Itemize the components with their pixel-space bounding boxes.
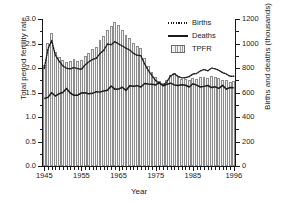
y-axis-right-minor-tick: [236, 80, 239, 81]
x-axis-minor-tick: [70, 167, 71, 170]
x-axis-tick-label: 1945: [29, 171, 59, 180]
x-axis-tick-label: 1975: [141, 171, 171, 180]
x-axis-tick-label: 1985: [178, 171, 208, 180]
y-axis-left-tick: [38, 93, 42, 94]
x-axis-minor-tick: [67, 167, 68, 170]
x-axis-minor-tick: [96, 167, 97, 170]
y-axis-right-tick: [236, 68, 240, 69]
x-axis-minor-tick: [48, 167, 49, 170]
y-axis-left-minor-tick: [40, 56, 43, 57]
x-axis-minor-tick: [182, 167, 183, 170]
y-axis-left-tick-label: 0.0: [12, 161, 36, 170]
y-axis-left-tick: [38, 166, 42, 167]
x-axis-minor-tick: [148, 167, 149, 170]
x-axis-minor-tick: [178, 167, 179, 170]
x-axis-minor-tick: [230, 167, 231, 170]
y-axis-left-tick: [38, 19, 42, 20]
y-axis-left-tick: [38, 44, 42, 45]
x-axis-minor-tick: [174, 167, 175, 170]
y-axis-left-minor-tick: [40, 154, 43, 155]
y-axis-left-minor-tick: [40, 31, 43, 32]
y-axis-right-tick-label: 200: [242, 137, 268, 146]
hatched-swatch-icon: [168, 43, 188, 54]
y-axis-right-tick: [236, 93, 240, 94]
x-axis-minor-tick: [111, 167, 112, 170]
y-axis-right-tick-label: 600: [242, 88, 268, 97]
y-axis-right-minor-tick: [236, 56, 239, 57]
x-axis-minor-tick: [223, 167, 224, 170]
y-axis-right-tick: [236, 19, 240, 20]
x-axis-minor-tick: [74, 167, 75, 170]
x-axis-minor-tick: [215, 167, 216, 170]
y-axis-left-tick-label: 3.0: [12, 14, 36, 23]
x-axis-minor-tick: [152, 167, 153, 170]
chart-legend: BirthsDeathsTPFR: [168, 17, 234, 55]
deaths-line: [44, 83, 234, 99]
x-axis-minor-tick: [89, 167, 90, 170]
x-axis-minor-tick: [52, 167, 53, 170]
legend-label: TPFR: [192, 44, 212, 53]
y-axis-left-minor-tick: [40, 80, 43, 81]
y-axis-left-minor-tick: [40, 105, 43, 106]
y-axis-right-tick-label: 400: [242, 112, 268, 121]
x-axis-minor-tick: [104, 167, 105, 170]
solid-line-icon: [168, 30, 188, 41]
y-axis-right-minor-tick: [236, 105, 239, 106]
x-axis-minor-tick: [137, 167, 138, 170]
y-axis-right-tick-label: 1000: [242, 39, 268, 48]
x-axis-minor-tick: [55, 167, 56, 170]
x-axis-minor-tick: [141, 167, 142, 170]
x-axis-minor-tick: [145, 167, 146, 170]
y-axis-left-tick: [38, 68, 42, 69]
dotted-line-glyph: [168, 22, 188, 24]
y-axis-right-minor-tick: [236, 129, 239, 130]
x-axis-minor-tick: [130, 167, 131, 170]
solid-line-glyph: [168, 35, 188, 37]
y-axis-left-tick: [38, 142, 42, 143]
chart-figure: Total period fertility rate Births and d…: [0, 0, 289, 203]
x-axis-title: Year: [42, 187, 236, 196]
legend-label: Births: [192, 18, 211, 27]
y-axis-right-tick: [236, 142, 240, 143]
y-axis-right-tick-label: 800: [242, 63, 268, 72]
y-axis-right-tick: [236, 44, 240, 45]
x-axis-minor-tick: [115, 167, 116, 170]
x-axis-minor-tick: [204, 167, 205, 170]
y-axis-left-tick-label: 1.5: [12, 88, 36, 97]
x-axis-minor-tick: [59, 167, 60, 170]
y-axis-right-tick: [236, 166, 240, 167]
legend-label: Deaths: [192, 31, 216, 40]
x-axis-minor-tick: [100, 167, 101, 170]
y-axis-right-minor-tick: [236, 154, 239, 155]
x-axis-minor-tick: [197, 167, 198, 170]
legend-item-tpfr: TPFR: [168, 43, 234, 54]
x-axis-tick-label: 1965: [104, 171, 134, 180]
x-axis-minor-tick: [185, 167, 186, 170]
x-axis-minor-tick: [107, 167, 108, 170]
x-axis-minor-tick: [167, 167, 168, 170]
x-axis-minor-tick: [159, 167, 160, 170]
y-axis-left-tick-label: 2.5: [12, 39, 36, 48]
x-axis-minor-tick: [93, 167, 94, 170]
x-axis-tick-label: 1996: [219, 171, 249, 180]
y-axis-left-minor-tick: [40, 129, 43, 130]
hatched-swatch-glyph: [171, 45, 185, 53]
y-axis-left-line: [42, 19, 43, 167]
x-axis-minor-tick: [200, 167, 201, 170]
y-axis-left-tick-label: 2.0: [12, 63, 36, 72]
x-axis-minor-tick: [126, 167, 127, 170]
y-axis-right-tick-label: 1200: [242, 14, 268, 23]
x-axis-minor-tick: [171, 167, 172, 170]
x-axis-minor-tick: [63, 167, 64, 170]
x-axis-minor-tick: [163, 167, 164, 170]
y-axis-right-tick: [236, 117, 240, 118]
y-axis-right-minor-tick: [236, 31, 239, 32]
x-axis-minor-tick: [211, 167, 212, 170]
x-axis-minor-tick: [219, 167, 220, 170]
y-axis-left-tick-label: 1.0: [12, 112, 36, 121]
x-axis-minor-tick: [78, 167, 79, 170]
x-axis-minor-tick: [85, 167, 86, 170]
x-axis-minor-tick: [208, 167, 209, 170]
x-axis-minor-tick: [122, 167, 123, 170]
x-axis-minor-tick: [189, 167, 190, 170]
